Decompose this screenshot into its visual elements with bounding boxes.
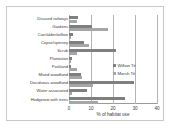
legend-label-marsh-tit: Marsh Tit (117, 71, 135, 76)
bar-group (69, 39, 157, 47)
legend-item-marsh-tit: Marsh Tit (113, 71, 136, 76)
bar-group (69, 80, 157, 88)
chart-plot-wrapper: Disused railwaysGardensCarr/alder/willow… (7, 7, 163, 120)
category-label: Disused railways (37, 17, 68, 21)
legend-label-willow-tit: Willow Tit (117, 63, 135, 68)
category-label: Copse/spinney (41, 41, 68, 45)
chart-legend: Willow Tit Marsh Tit (113, 63, 136, 79)
plot-area (69, 15, 157, 104)
legend-swatch-icon-willow-tit (113, 64, 116, 67)
bar-group (69, 23, 157, 31)
x-tick-label: 30 (128, 106, 142, 111)
bar-group (69, 96, 157, 104)
bar-marsh-tit (69, 101, 98, 104)
legend-swatch-icon-marsh-tit (113, 72, 116, 75)
category-label: Carr/alder/willow (38, 33, 68, 37)
x-tick-label: 20 (106, 106, 120, 111)
bar-group (69, 31, 157, 39)
category-label: Gardens (52, 25, 68, 29)
x-tick-label: 0 (62, 106, 76, 111)
x-tick-label: 10 (84, 106, 98, 111)
category-label: Deciduous woodland (30, 81, 68, 85)
chart-frame: Disused railwaysGardensCarr/alder/willow… (6, 6, 164, 121)
bar-group (69, 47, 157, 55)
category-label: Hedgerow with trees (31, 98, 68, 102)
category-label: Mixed woodland (38, 73, 68, 77)
gridline-40 (157, 15, 158, 104)
category-label: Plantation (50, 57, 68, 61)
x-tick-label: 40 (150, 106, 164, 111)
x-axis-title: % of habitat use (69, 112, 157, 117)
category-label: Water associated (37, 89, 68, 93)
category-label: Parkland (52, 65, 68, 69)
legend-item-willow-tit: Willow Tit (113, 63, 136, 68)
bar-group (69, 15, 157, 23)
category-label: Scrub (57, 49, 68, 53)
bar-group (69, 88, 157, 96)
